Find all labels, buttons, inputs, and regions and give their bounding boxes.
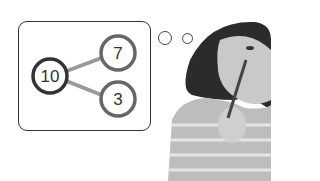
connector-bottom [64, 80, 104, 96]
girl-thinking-photo [150, 0, 271, 181]
part-label-bottom: 3 [113, 90, 122, 109]
whole-label: 10 [41, 67, 60, 86]
hand [218, 107, 246, 143]
connector-top [64, 57, 104, 72]
part-label-top: 7 [113, 44, 122, 63]
eye [246, 46, 254, 50]
